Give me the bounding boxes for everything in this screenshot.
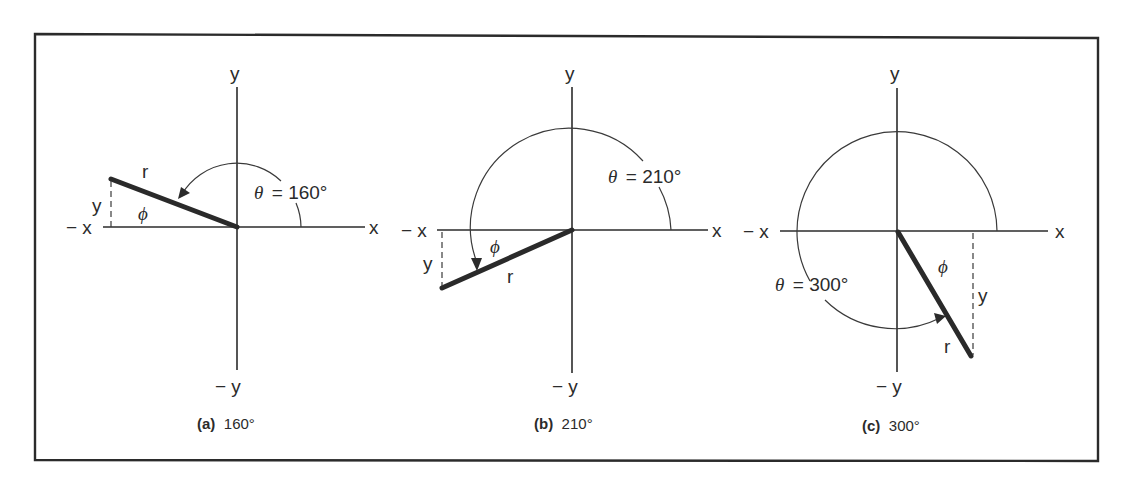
neg-x-label: − x bbox=[743, 221, 769, 242]
pos-y-label: y bbox=[890, 63, 900, 84]
y-component-label: y bbox=[423, 253, 433, 274]
theta-label: θ = 210° bbox=[608, 166, 681, 187]
neg-x-label: − x bbox=[401, 220, 427, 241]
theta-arc-lower bbox=[296, 203, 301, 227]
panel-a: y − y x − x r ϕ y θ = 160° (a) 160° bbox=[66, 63, 379, 432]
neg-y-label: − y bbox=[552, 376, 578, 397]
neg-y-label: − y bbox=[876, 376, 902, 397]
arrowhead-icon bbox=[178, 187, 190, 199]
polar-angle-figure: y − y x − x r ϕ y θ = 160° (a) 160° y − … bbox=[0, 0, 1130, 480]
r-label: r bbox=[944, 336, 951, 357]
phi-label: ϕ bbox=[938, 256, 948, 277]
r-label: r bbox=[507, 266, 514, 287]
neg-y-label: − y bbox=[215, 376, 241, 397]
panel-b: y − y x − x r ϕ y θ = 210° (b) 210° bbox=[401, 63, 722, 432]
pos-x-label: x bbox=[712, 220, 722, 241]
radius-vector bbox=[898, 232, 971, 356]
phi-label: ϕ bbox=[490, 236, 500, 257]
neg-x-label: − x bbox=[66, 217, 92, 238]
pos-y-label: y bbox=[565, 63, 575, 84]
phi-label: ϕ bbox=[138, 203, 148, 224]
y-component-label: y bbox=[978, 285, 988, 306]
pos-y-label: y bbox=[230, 63, 240, 84]
theta-arc-lower bbox=[659, 187, 671, 230]
theta-label: θ = 300° bbox=[775, 274, 848, 295]
radius-vector bbox=[111, 179, 237, 227]
theta-label: θ = 160° bbox=[254, 182, 327, 203]
y-component-label: y bbox=[92, 195, 102, 216]
r-label: r bbox=[142, 161, 149, 182]
caption-c: (c) 300° bbox=[862, 417, 920, 434]
pos-x-label: x bbox=[1055, 221, 1065, 242]
pos-x-label: x bbox=[369, 217, 379, 238]
caption-b: (b) 210° bbox=[534, 415, 593, 432]
theta-arc-lower bbox=[825, 300, 940, 329]
figure-canvas: y − y x − x r ϕ y θ = 160° (a) 160° y − … bbox=[0, 0, 1130, 480]
panel-c: y − y x − x r ϕ y θ = 300° (c) 300° bbox=[743, 63, 1065, 434]
caption-a: (a) 160° bbox=[197, 415, 255, 432]
